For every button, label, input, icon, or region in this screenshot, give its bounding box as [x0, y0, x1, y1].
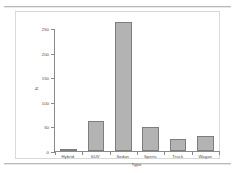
bar — [60, 149, 77, 151]
y-axis-title: N — [34, 87, 39, 90]
bar-slot — [137, 29, 164, 151]
y-axis-tick-label: 100 — [42, 100, 49, 105]
x-axis-tick-labels: HybridSUVSedanSportsTruckWagon — [54, 154, 219, 159]
chart-panel: 050100150200250 HybridSUVSedanSportsTruc… — [15, 11, 220, 159]
bar — [170, 139, 187, 151]
x-axis-tick-label: SUV — [82, 154, 110, 159]
bar-slot — [164, 29, 191, 151]
x-axis-tick-label: Wagon — [192, 154, 220, 159]
bar — [88, 121, 105, 151]
bar — [115, 22, 132, 151]
bar-slot — [82, 29, 109, 151]
y-axis-tick-label: 50 — [44, 125, 49, 130]
top-divider — [4, 6, 231, 8]
plot-area: 050100150200250 — [54, 29, 219, 152]
x-axis-tick-label: Sedan — [109, 154, 137, 159]
y-axis-tick-label: 200 — [42, 51, 49, 56]
chart-page: 050100150200250 HybridSUVSedanSportsTruc… — [0, 0, 235, 173]
y-axis-tick-label: 150 — [42, 76, 49, 81]
x-axis-tick — [219, 151, 220, 155]
bar-slot — [192, 29, 219, 151]
x-axis-tick-label: Hybrid — [54, 154, 82, 159]
bar-slot — [55, 29, 82, 151]
bar-slot — [110, 29, 137, 151]
x-axis-tick-label: Sports — [137, 154, 165, 159]
y-axis-tick-label: 0 — [47, 150, 49, 155]
bar — [197, 136, 214, 151]
x-axis-tick-label: Truck — [164, 154, 192, 159]
bar — [142, 127, 159, 151]
bar-series — [55, 29, 219, 151]
x-axis-title: Type — [54, 162, 219, 167]
y-axis-tick-label: 250 — [42, 27, 49, 32]
